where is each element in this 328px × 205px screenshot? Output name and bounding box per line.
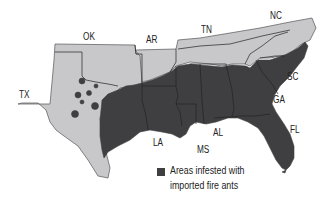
legend-line-1: Areas infested with: [170, 163, 262, 178]
infested-spot: [87, 91, 92, 96]
infested-spot: [92, 103, 99, 110]
state-label-tn: TN: [201, 24, 212, 35]
state-label-ga: GA: [273, 94, 285, 105]
infested-spot: [72, 111, 79, 118]
state-label-ok: OK: [83, 31, 95, 42]
infested-spot: [79, 78, 85, 84]
legend-line-2: imported fire ants: [170, 178, 262, 193]
infested-spot: [94, 84, 98, 88]
state-label-al: AL: [213, 127, 223, 138]
state-label-nc: NC: [270, 10, 282, 21]
state-label-sc: SC: [287, 71, 298, 82]
state-label-tx: TX: [19, 89, 29, 100]
infested-spot: [80, 100, 84, 104]
legend-swatch-infested: [157, 168, 165, 176]
state-label-fl: FL: [290, 124, 300, 135]
infested-spot: [75, 92, 81, 98]
legend-label: Areas infested with imported fire ants: [170, 163, 262, 193]
state-label-ms: MS: [197, 144, 209, 155]
florida-keys: [282, 170, 286, 173]
state-label-la: LA: [153, 137, 163, 148]
state-label-ar: AR: [146, 34, 157, 45]
